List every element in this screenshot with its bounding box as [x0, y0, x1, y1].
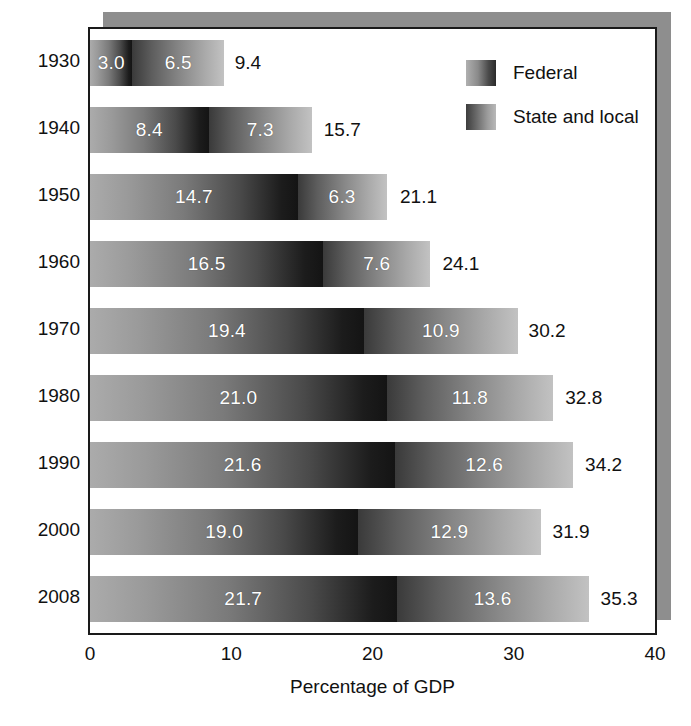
y-axis-tick-label: 1970: [6, 318, 80, 340]
bar-row[interactable]: 19.012.9: [90, 509, 541, 555]
bar-total-value: 15.7: [324, 119, 361, 141]
bar-segment-value-state-and-local: 10.9: [422, 320, 460, 342]
bar-total-value: 32.8: [565, 387, 602, 409]
bar-segment-value-federal: 3.0: [98, 52, 125, 74]
bar-segment-federal[interactable]: 19.4: [90, 308, 364, 354]
bar-segment-value-state-and-local: 13.6: [474, 588, 512, 610]
bar-segment-state-and-local[interactable]: 7.3: [209, 107, 312, 153]
bar-segment-value-state-and-local: 6.3: [329, 186, 356, 208]
x-axis-ticks: 010203040: [88, 637, 657, 671]
bar-segment-state-and-local[interactable]: 6.5: [132, 40, 224, 86]
y-axis-tick-label: 1990: [6, 452, 80, 474]
bar-segment-value-federal: 8.4: [136, 119, 163, 141]
bar-segment-state-and-local[interactable]: 11.8: [387, 375, 554, 421]
bar-total-value: 34.2: [585, 454, 622, 476]
chart-figure: 193019401950196019701980199020002008 3.0…: [0, 0, 691, 726]
bar-segment-state-and-local[interactable]: 6.3: [298, 174, 387, 220]
bar-total-value: 30.2: [529, 320, 566, 342]
x-axis-tick-label: 30: [503, 643, 524, 665]
bar-segment-value-federal: 19.0: [205, 521, 243, 543]
bar-total-value: 31.9: [553, 521, 590, 543]
bar-total-value: 9.4: [235, 52, 261, 74]
bar-row[interactable]: 8.47.3: [90, 107, 312, 153]
legend-swatch-federal-icon: [466, 60, 496, 86]
y-axis-year-labels: 193019401950196019701980199020002008: [0, 27, 80, 635]
x-axis-tick-label: 0: [85, 643, 96, 665]
bar-segment-state-and-local[interactable]: 7.6: [323, 241, 430, 287]
bar-segment-federal[interactable]: 19.0: [90, 509, 358, 555]
bar-row[interactable]: 3.06.5: [90, 40, 224, 86]
legend-label-state-and-local: State and local: [513, 106, 639, 128]
legend-item-state-and-local: State and local: [466, 99, 651, 135]
bar-segment-federal[interactable]: 8.4: [90, 107, 209, 153]
y-axis-tick-label: 1930: [6, 50, 80, 72]
chart-legend: Federal State and local: [466, 55, 651, 143]
bar-total-value: 35.3: [601, 588, 638, 610]
bar-segment-value-federal: 21.7: [224, 588, 262, 610]
bar-segment-value-federal: 16.5: [188, 253, 226, 275]
bar-segment-state-and-local[interactable]: 13.6: [397, 576, 589, 622]
bar-row[interactable]: 19.410.9: [90, 308, 518, 354]
x-axis-title: Percentage of GDP: [88, 676, 657, 698]
x-axis-tick-label: 10: [221, 643, 242, 665]
bar-segment-value-state-and-local: 7.6: [363, 253, 390, 275]
bar-segment-value-federal: 21.0: [219, 387, 257, 409]
bar-row[interactable]: 16.57.6: [90, 241, 430, 287]
bar-segment-value-federal: 14.7: [175, 186, 213, 208]
bar-segment-federal[interactable]: 14.7: [90, 174, 298, 220]
bar-segment-state-and-local[interactable]: 12.6: [395, 442, 573, 488]
bar-row[interactable]: 21.713.6: [90, 576, 589, 622]
bar-row[interactable]: 21.612.6: [90, 442, 573, 488]
y-axis-tick-label: 1940: [6, 117, 80, 139]
bar-segment-federal[interactable]: 16.5: [90, 241, 323, 287]
y-axis-tick-label: 1960: [6, 251, 80, 273]
bar-segment-value-federal: 21.6: [224, 454, 262, 476]
x-axis-tick-label: 40: [644, 643, 665, 665]
bar-segment-state-and-local[interactable]: 12.9: [358, 509, 540, 555]
y-axis-tick-label: 2008: [6, 586, 80, 608]
bar-row[interactable]: 21.011.8: [90, 375, 553, 421]
bar-segment-value-federal: 19.4: [208, 320, 246, 342]
bar-segment-value-state-and-local: 6.5: [165, 52, 192, 74]
bar-segment-federal[interactable]: 3.0: [90, 40, 132, 86]
legend-label-federal: Federal: [513, 62, 577, 84]
bar-segment-federal[interactable]: 21.7: [90, 576, 397, 622]
y-axis-tick-label: 1980: [6, 385, 80, 407]
legend-swatch-state-and-local-icon: [466, 104, 496, 130]
bar-segment-federal[interactable]: 21.6: [90, 442, 395, 488]
y-axis-tick-label: 1950: [6, 184, 80, 206]
bar-segment-value-state-and-local: 12.9: [431, 521, 469, 543]
bar-segment-value-state-and-local: 7.3: [247, 119, 274, 141]
bar-segment-value-state-and-local: 11.8: [452, 387, 488, 409]
y-axis-tick-label: 2000: [6, 519, 80, 541]
legend-item-federal: Federal: [466, 55, 651, 91]
bar-segment-value-state-and-local: 12.6: [465, 454, 503, 476]
bar-total-value: 21.1: [400, 186, 437, 208]
bar-total-value: 24.1: [442, 253, 479, 275]
bar-row[interactable]: 14.76.3: [90, 174, 387, 220]
x-axis-tick-label: 20: [362, 643, 383, 665]
bar-segment-state-and-local[interactable]: 10.9: [364, 308, 518, 354]
bar-segment-federal[interactable]: 21.0: [90, 375, 387, 421]
